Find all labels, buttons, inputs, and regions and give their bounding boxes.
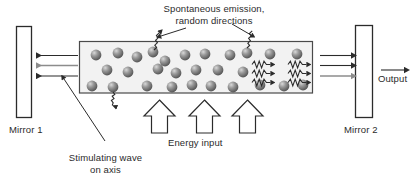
right-beam-arrows: [320, 56, 351, 77]
atom: [180, 50, 191, 61]
atom: [167, 82, 178, 93]
energy-input-label: Energy input: [168, 137, 223, 149]
stimulating-wave-label: Stimulating wave on axis: [58, 152, 153, 176]
atom: [225, 50, 236, 61]
laser-cavity-diagram: Spontaneous emission, random directions …: [0, 0, 420, 187]
stimulating-wave-label-line2: on axis: [58, 164, 153, 176]
atom: [132, 52, 143, 63]
atom: [242, 48, 253, 59]
atom: [228, 82, 239, 93]
atom: [113, 48, 124, 59]
spontaneous-emission-label: Spontaneous emission, random directions: [150, 3, 278, 27]
atom: [238, 67, 249, 78]
atom: [213, 65, 224, 76]
atom: [265, 49, 276, 60]
atom: [102, 65, 113, 76]
left-beam-arrows: [36, 56, 78, 77]
mirror-2-label: Mirror 2: [344, 124, 378, 136]
atom: [160, 56, 171, 67]
mirror-1-shape: [17, 27, 32, 118]
atom: [171, 68, 182, 79]
atom: [91, 50, 102, 61]
atom: [142, 81, 153, 92]
spontaneous-emission-label-line2: random directions: [150, 15, 278, 27]
energy-input-arrows: [144, 100, 263, 133]
atom: [292, 49, 303, 60]
mirror-1-label: Mirror 1: [9, 124, 43, 136]
energy-input-arrow: [232, 100, 263, 133]
atom: [200, 49, 211, 60]
energy-input-arrow: [189, 100, 220, 133]
spontaneous-emission-label-line1: Spontaneous emission,: [150, 3, 278, 15]
atom: [108, 82, 119, 93]
spontaneous-squiggle-down: [111, 92, 114, 105]
atom: [206, 81, 217, 92]
stimulating-wave-label-line1: Stimulating wave: [58, 152, 153, 164]
atom: [187, 80, 198, 91]
output-label: Output: [378, 73, 407, 85]
atom: [148, 47, 159, 58]
atom: [191, 65, 202, 76]
atom: [87, 81, 98, 92]
energy-input-arrow: [144, 100, 175, 133]
leader-line-left: [161, 28, 186, 36]
atom: [123, 67, 134, 78]
mirror-2-shape: [356, 26, 373, 118]
